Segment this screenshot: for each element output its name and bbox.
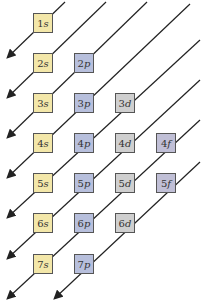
orbital-6s: 6s <box>33 213 53 233</box>
orbital-letter: p <box>84 259 90 270</box>
orbital-7p: 7p <box>74 254 94 274</box>
orbital-6d: 6d <box>115 213 135 233</box>
orbital-1s: 1s <box>33 13 53 33</box>
orbital-letter: s <box>44 98 49 109</box>
orbital-letter: p <box>84 218 90 229</box>
orbital-letter: p <box>84 138 90 149</box>
orbital-2s: 2s <box>33 53 53 73</box>
orbital-letter: d <box>125 98 131 109</box>
orbital-7s: 7s <box>33 254 53 274</box>
orbital-letter: s <box>44 18 49 29</box>
orbital-4p: 4p <box>74 133 94 153</box>
orbital-letter: d <box>125 138 131 149</box>
orbital-letter: s <box>44 138 49 149</box>
orbital-letter: p <box>84 58 90 69</box>
orbital-letter: s <box>44 259 49 270</box>
orbital-letter: f <box>167 178 171 189</box>
orbital-letter: d <box>125 178 131 189</box>
orbital-3s: 3s <box>33 93 53 113</box>
orbital-letter: d <box>125 218 131 229</box>
orbital-letter: s <box>44 218 49 229</box>
orbital-3d: 3d <box>115 93 135 113</box>
orbital-letter: s <box>44 178 49 189</box>
orbital-5s: 5s <box>33 173 53 193</box>
diagonal-arrow-2 <box>8 2 106 97</box>
orbital-letter: p <box>84 98 90 109</box>
orbital-letter: f <box>167 138 171 149</box>
orbital-2p: 2p <box>74 53 94 73</box>
orbital-letter: s <box>44 58 49 69</box>
orbital-letter: p <box>84 178 90 189</box>
orbital-5p: 5p <box>74 173 94 193</box>
orbital-5d: 5d <box>115 173 135 193</box>
orbital-5f: 5f <box>156 173 176 193</box>
orbital-3p: 3p <box>74 93 94 113</box>
orbital-4s: 4s <box>33 133 53 153</box>
orbital-4d: 4d <box>115 133 135 153</box>
orbital-6p: 6p <box>74 213 94 233</box>
orbital-4f: 4f <box>156 133 176 153</box>
